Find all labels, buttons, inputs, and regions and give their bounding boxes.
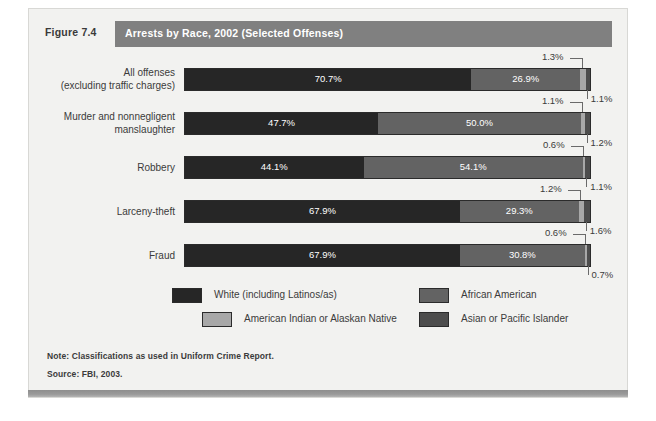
bar-segment-asian-pacific <box>587 245 590 266</box>
callout-leader-line <box>587 90 588 99</box>
callout-leader-line <box>582 102 583 112</box>
figure-panel: Figure 7.4 Arrests by Race, 2002 (Select… <box>28 8 628 398</box>
bar-row-label: Fraud <box>29 250 175 263</box>
callout-leader-line <box>588 266 589 275</box>
callout-american-indian: 1.1% <box>542 95 564 106</box>
bar-segment-value: 70.7% <box>185 73 471 84</box>
bar-row-label-line1: Robbery <box>29 162 175 175</box>
legend-swatch <box>419 312 449 327</box>
callout-american-indian: 0.6% <box>545 227 567 238</box>
stacked-bar: 67.9%30.8% <box>184 244 591 267</box>
bar-row: Murder and nonnegligentmanslaughter47.7%… <box>29 101 629 145</box>
legend-swatch <box>172 288 202 303</box>
figure-note: Note: Classifications as used in Uniform… <box>47 351 274 361</box>
callout-leader-line <box>587 134 588 143</box>
bar-row: Fraud67.9%30.8%0.6%0.7% <box>29 233 629 277</box>
bar-segment-asian-pacific <box>586 69 590 90</box>
callout-leader-line <box>583 146 584 156</box>
callout-leader-line <box>580 190 581 200</box>
callout-leader-line <box>570 102 582 103</box>
callout-american-indian: 1.2% <box>540 183 562 194</box>
figure-title: Arrests by Race, 2002 (Selected Offenses… <box>125 27 343 39</box>
bar-row-label: Murder and nonnegligentmanslaughter <box>29 111 175 136</box>
bar-segment-value: 50.0% <box>378 117 581 128</box>
bar-segment-african-american: 54.1% <box>364 157 583 178</box>
bar-segment-value: 54.1% <box>364 161 583 172</box>
figure-header: Figure 7.4 Arrests by Race, 2002 (Select… <box>29 21 627 47</box>
bar-segment-asian-pacific <box>585 157 589 178</box>
callout-leader-line <box>585 234 586 244</box>
callout-leader-line <box>570 58 582 59</box>
bar-segment-white: 47.7% <box>185 113 378 134</box>
bar-row: Larceny-theft67.9%29.3%1.2%1.6% <box>29 189 629 233</box>
callout-leader-line <box>586 178 587 187</box>
bar-segment-white: 67.9% <box>185 201 460 222</box>
callout-leader-line <box>568 190 580 191</box>
bar-row-label-line1: Larceny-theft <box>29 206 175 219</box>
stacked-bar: 47.7%50.0% <box>184 112 591 135</box>
bar-row-label-line2: manslaughter <box>29 124 175 137</box>
bar-segment-african-american: 50.0% <box>378 113 581 134</box>
bar-row-label-line1: Murder and nonnegligent <box>29 111 175 124</box>
legend-swatch <box>419 288 449 303</box>
bar-row: All offenses(excluding traffic charges)7… <box>29 57 629 101</box>
bar-segment-value: 67.9% <box>185 205 460 216</box>
bar-row-label-line1: Fraud <box>29 250 175 263</box>
legend-swatch <box>202 312 232 327</box>
callout-american-indian: 0.6% <box>543 139 565 150</box>
callout-leader-line <box>586 222 587 231</box>
bar-segment-value: 26.9% <box>471 73 580 84</box>
bar-segment-african-american: 30.8% <box>460 245 585 266</box>
figure-number: Figure 7.4 <box>45 26 97 38</box>
callout-leader-line <box>571 146 583 147</box>
bar-segment-value: 44.1% <box>185 161 364 172</box>
chart-plot-area: All offenses(excluding traffic charges)7… <box>29 57 629 279</box>
stacked-bar: 44.1%54.1% <box>184 156 591 179</box>
figure-page: Figure 7.4 Arrests by Race, 2002 (Select… <box>0 0 656 421</box>
callout-asian-pacific: 0.7% <box>592 269 614 280</box>
bar-segment-asian-pacific <box>585 113 590 134</box>
bar-row: Robbery44.1%54.1%0.6%1.1% <box>29 145 629 189</box>
bar-segment-african-american: 26.9% <box>471 69 580 90</box>
bar-row-label-line1: All offenses <box>29 67 175 80</box>
bar-segment-african-american: 29.3% <box>460 201 579 222</box>
legend-label: American Indian or Alaskan Native <box>244 313 397 324</box>
bar-row-label: All offenses(excluding traffic charges) <box>29 67 175 92</box>
legend-label: White (including Latinos/as) <box>214 289 337 300</box>
stacked-bar: 67.9%29.3% <box>184 200 591 223</box>
bar-row-label: Robbery <box>29 162 175 175</box>
stacked-bar: 70.7%26.9% <box>184 68 591 91</box>
legend-label: African American <box>461 289 537 300</box>
bar-segment-asian-pacific <box>584 201 590 222</box>
bar-segment-value: 47.7% <box>185 117 378 128</box>
chart-legend: White (including Latinos/as)African Amer… <box>29 287 629 335</box>
bar-segment-white: 44.1% <box>185 157 364 178</box>
bar-segment-white: 67.9% <box>185 245 460 266</box>
legend-label: Asian or Pacific Islander <box>461 313 568 324</box>
bar-segment-white: 70.7% <box>185 69 471 90</box>
bar-segment-value: 30.8% <box>460 249 585 260</box>
panel-footer-bar <box>28 390 628 397</box>
bar-segment-value: 67.9% <box>185 249 460 260</box>
callout-leader-line <box>582 58 583 68</box>
bar-segment-value: 29.3% <box>460 205 579 216</box>
bar-row-label: Larceny-theft <box>29 206 175 219</box>
bar-row-label-line2: (excluding traffic charges) <box>29 80 175 93</box>
callout-leader-line <box>573 234 585 235</box>
callout-american-indian: 1.3% <box>542 51 564 62</box>
figure-title-band: Arrests by Race, 2002 (Selected Offenses… <box>115 21 612 47</box>
figure-source: Source: FBI, 2003. <box>47 369 123 379</box>
